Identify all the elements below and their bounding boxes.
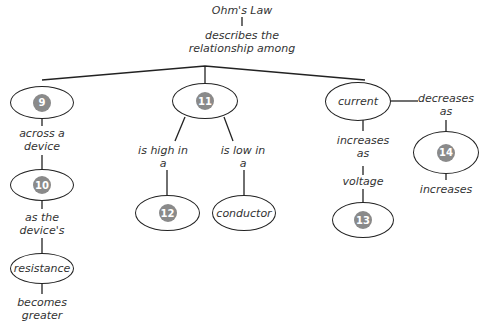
- link-is-low: is low in a: [218, 144, 268, 170]
- node-13: 13: [332, 202, 394, 238]
- node-9: 9: [10, 86, 74, 119]
- link-is-high: is high in a: [138, 144, 188, 170]
- link-becomes: becomes greater: [12, 296, 72, 322]
- node-voltage: voltage: [342, 175, 383, 188]
- root-link: describes the relationship among: [177, 29, 307, 55]
- link-across: across a device: [12, 127, 72, 153]
- node-11: 11: [172, 83, 238, 119]
- link-as-the: as the device's: [12, 211, 72, 237]
- link-decreases-as: decreases as: [416, 92, 476, 118]
- node-resistance: resistance: [10, 253, 74, 284]
- node-10: 10: [10, 169, 74, 201]
- title: Ohm's Law: [212, 4, 272, 17]
- node-12: 12: [135, 195, 200, 231]
- link-increases: increases: [420, 183, 472, 196]
- node-current: current: [325, 82, 391, 121]
- node-14: 14: [413, 131, 479, 174]
- link-increases-as: increases as: [333, 134, 393, 160]
- node-conductor: conductor: [212, 195, 276, 231]
